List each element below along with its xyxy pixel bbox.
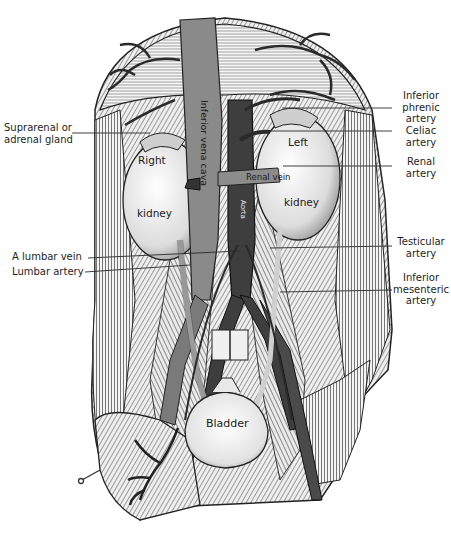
- label-line: artery: [393, 168, 449, 180]
- label-inferior-phrenic-artery: Inferior phrenic artery: [393, 90, 449, 125]
- pin: [79, 470, 101, 484]
- bladder: [185, 392, 268, 468]
- label-line: Lumbar artery: [12, 266, 84, 278]
- label-line: artery: [393, 248, 449, 260]
- label-line: Celiac: [393, 125, 449, 137]
- label-inferior-vena-cava: Inferior vena cava: [199, 100, 211, 186]
- label-line: Renal: [393, 156, 449, 168]
- label-celiac-artery: Celiac artery: [393, 125, 449, 148]
- label-line: artery: [393, 113, 449, 125]
- anatomy-figure: Suprarenal or adrenal gland A lumbar vei…: [0, 0, 451, 536]
- label-testicular-artery: Testicular artery: [393, 236, 449, 259]
- label-bladder: Bladder: [206, 418, 249, 430]
- label-suprarenal-gland: Suprarenal or adrenal gland: [4, 122, 73, 145]
- label-line: A lumbar vein: [12, 251, 82, 263]
- label-line: Inferior: [393, 272, 449, 284]
- label-line: Testicular: [393, 236, 449, 248]
- label-inferior-mesenteric-artery: Inferior mesenteric artery: [393, 272, 449, 307]
- label-line: Suprarenal or: [4, 122, 73, 134]
- label-line: adrenal gland: [4, 134, 73, 146]
- label-renal-artery: Renal artery: [393, 156, 449, 179]
- label-left-kidney-bottom: kidney: [284, 197, 319, 209]
- label-line: Inferior: [393, 90, 449, 102]
- label-right-kidney-top: Right: [138, 155, 166, 167]
- label-line: artery: [393, 295, 449, 307]
- label-left-kidney-top: Left: [288, 137, 308, 149]
- label-lumbar-vein: A lumbar vein: [12, 251, 82, 263]
- label-lumbar-artery: Lumbar artery: [12, 266, 84, 278]
- label-right-kidney-bottom: kidney: [137, 208, 172, 220]
- label-line: mesenteric: [393, 284, 449, 296]
- label-renal-vein: Renal vein: [246, 172, 290, 184]
- label-line: phrenic: [393, 102, 449, 114]
- label-aorta: Aorta: [237, 200, 249, 219]
- label-line: artery: [393, 137, 449, 149]
